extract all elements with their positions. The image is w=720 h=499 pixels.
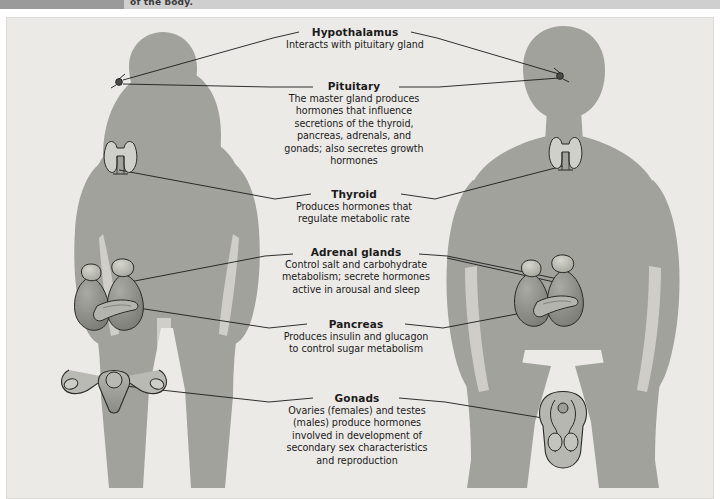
label-pituitary-line-0: The master gland produces: [265, 93, 443, 105]
label-gonads-line-3: secondary sex characteristics: [261, 442, 453, 454]
label-hypothalamus-title: Hypothalamus: [257, 26, 453, 39]
page-root: of the body.: [0, 0, 720, 499]
label-pituitary-line-5: hormones: [265, 155, 443, 167]
label-pancreas-title: Pancreas: [259, 318, 453, 331]
label-pituitary-line-2: secretions of the thyroid,: [265, 118, 443, 130]
page-header-gap: [0, 9, 720, 17]
label-thyroid: Thyroid Produces hormones that regulate …: [269, 188, 439, 226]
label-pancreas-line-0: Produces insulin and glucagon: [259, 331, 453, 343]
label-adrenal-glands-line-2: active in arousal and sleep: [255, 284, 457, 296]
label-adrenal-glands-line-1: metabolism; secrete hormones: [255, 271, 457, 283]
label-thyroid-title: Thyroid: [269, 188, 439, 201]
label-hypothalamus-line-0: Interacts with pituitary gland: [257, 39, 453, 51]
label-pancreas-line-1: to control sugar metabolism: [259, 343, 453, 355]
testes: [540, 392, 587, 469]
label-gonads-line-0: Ovaries (females) and testes: [261, 405, 453, 417]
page-header-cropped-text: of the body.: [130, 0, 430, 9]
label-pituitary-line-3: pancreas, adrenals, and: [265, 130, 443, 142]
label-hypothalamus: Hypothalamus Interacts with pituitary gl…: [257, 26, 453, 51]
label-adrenal-glands-title: Adrenal glands: [255, 246, 457, 259]
label-gonads-title: Gonads: [261, 392, 453, 405]
page-header-block: [0, 0, 124, 9]
label-pituitary-line-1: hormones that influence: [265, 105, 443, 117]
ovaries-uterus: [62, 370, 167, 413]
label-thyroid-line-1: regulate metabolic rate: [269, 213, 439, 225]
label-gonads-line-4: and reproduction: [261, 455, 453, 467]
label-thyroid-line-0: Produces hormones that: [269, 201, 439, 213]
label-pituitary: Pituitary The master gland produces horm…: [265, 80, 443, 167]
label-adrenal-glands: Adrenal glands Control salt and carbohyd…: [255, 246, 457, 296]
figure-frame: Hypothalamus Interacts with pituitary gl…: [6, 17, 714, 499]
label-gonads-line-2: involved in development of: [261, 430, 453, 442]
label-pancreas: Pancreas Produces insulin and glucagon t…: [259, 318, 453, 356]
label-adrenal-glands-line-0: Control salt and carbohydrate: [255, 259, 457, 271]
label-pituitary-title: Pituitary: [265, 80, 443, 93]
label-gonads-line-1: (males) produce hormones: [261, 417, 453, 429]
pituitary-marker-female: [111, 74, 125, 88]
label-pituitary-line-4: gonads; also secretes growth: [265, 143, 443, 155]
label-gonads: Gonads Ovaries (females) and testes (mal…: [261, 392, 453, 467]
